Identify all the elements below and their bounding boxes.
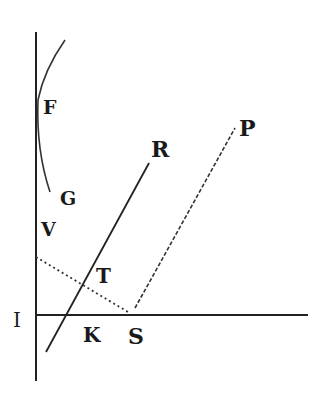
label-I: I (13, 310, 21, 330)
label-P: P (239, 117, 256, 139)
label-T: T (96, 266, 111, 286)
label-F: F (43, 98, 57, 117)
label-V: V (41, 220, 56, 239)
line-SP (135, 128, 235, 308)
label-K: K (83, 325, 100, 345)
label-R: R (151, 138, 169, 160)
label-S: S (128, 325, 144, 347)
diagram-canvas (0, 0, 324, 397)
label-G: G (60, 189, 76, 208)
